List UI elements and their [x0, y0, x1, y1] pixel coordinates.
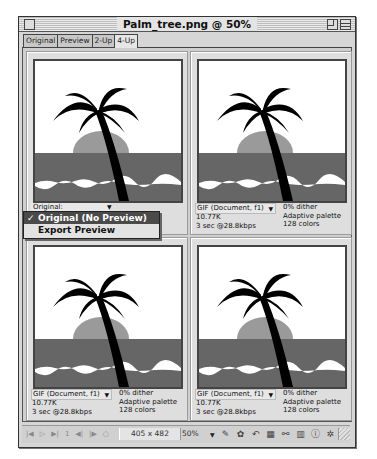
- palette-type: Adaptive palette: [283, 398, 341, 407]
- pane-info: GIF (Document, f1) ▼ 10.77K 3 sec @28.8k…: [195, 388, 348, 418]
- prev-frame-icon[interactable]: ◀|: [75, 430, 83, 438]
- chevron-down-icon[interactable]: ▼: [210, 428, 215, 441]
- pane-original[interactable]: Original: ▼: [26, 51, 188, 235]
- image-dimensions: 405 x 482: [119, 428, 181, 440]
- palm-tree-image: [199, 247, 345, 387]
- status-bar: |◀ ▷ ▶| 1 ◀| |▶ ○ 405 x 482 50% ▼ ✎ ✿ ↶ …: [22, 425, 350, 443]
- next-frame-icon[interactable]: |▶: [89, 430, 97, 438]
- title-bar[interactable]: Palm_tree.png @ 50%: [19, 17, 355, 32]
- file-stats: 10.77K 3 sec @28.8kbps: [196, 213, 256, 230]
- file-stats: 10.77K 3 sec @28.8kbps: [32, 399, 92, 416]
- image-preview[interactable]: [33, 59, 183, 203]
- undo-icon[interactable]: ↶: [250, 428, 261, 439]
- palm-tree-image: [35, 61, 181, 201]
- info-icon[interactable]: ⓘ: [310, 428, 321, 439]
- palette-type: Adaptive palette: [283, 212, 341, 221]
- check-icon: ✓: [27, 212, 35, 224]
- file-size: 10.77K: [196, 213, 256, 222]
- chevron-down-icon: ▼: [268, 204, 273, 213]
- collapse-box-button[interactable]: [340, 19, 351, 30]
- tab-preview[interactable]: Preview: [57, 34, 92, 47]
- image-preview[interactable]: [197, 59, 347, 203]
- play-icon[interactable]: ▷: [40, 430, 45, 438]
- loop-icon[interactable]: ○: [103, 430, 109, 438]
- file-size: 10.77K: [196, 399, 256, 408]
- window-title: Palm_tree.png @ 50%: [117, 17, 257, 31]
- toolbar-icons: ✎ ✿ ↶ ▦ ⚯ ▥ ⓘ ✲: [220, 428, 336, 439]
- pencil-icon[interactable]: ✎: [220, 428, 231, 439]
- download-time: 3 sec @28.8kbps: [32, 408, 92, 417]
- pane-optimized-2[interactable]: GIF (Document, f1) ▼ 10.77K 3 sec @28.8k…: [26, 237, 188, 421]
- last-frame-icon[interactable]: ▶|: [51, 430, 59, 438]
- file-stats: 10.77K 3 sec @28.8kbps: [196, 399, 256, 416]
- original-popup-menu: ✓ Original (No Preview) Export Preview: [23, 211, 160, 239]
- settings-icon[interactable]: ✲: [325, 428, 336, 439]
- chevron-down-icon: ▼: [268, 390, 273, 399]
- first-frame-icon[interactable]: |◀: [26, 430, 34, 438]
- animation-controls: |◀ ▷ ▶| 1 ◀| |▶ ○: [26, 430, 109, 438]
- palm-tree-image: [35, 247, 181, 387]
- document-window: Palm_tree.png @ 50% Original Preview 2-U…: [18, 16, 356, 448]
- file-size: 10.77K: [32, 399, 92, 408]
- dither-value: 0% dither: [283, 203, 341, 212]
- image-preview[interactable]: [33, 245, 183, 389]
- pane-info: GIF (Document, f1) ▼ 10.77K 3 sec @28.8k…: [31, 388, 184, 418]
- download-time: 3 sec @28.8kbps: [196, 408, 256, 417]
- image-preview[interactable]: [197, 245, 347, 389]
- close-box-button[interactable]: [24, 19, 35, 30]
- resize-handle[interactable]: [338, 428, 350, 440]
- download-time: 3 sec @28.8kbps: [196, 222, 256, 231]
- pane-optimized-1[interactable]: GIF (Document, f1) ▼ 10.77K 3 sec @28.8k…: [190, 51, 352, 235]
- menu-item-original-no-preview[interactable]: ✓ Original (No Preview): [24, 212, 159, 224]
- view-tabs: Original Preview 2-Up 4-Up: [23, 34, 137, 47]
- optimization-settings: 0% dither Adaptive palette 128 colors: [283, 203, 341, 229]
- zoom-box-button[interactable]: [327, 19, 338, 30]
- color-count: 128 colors: [283, 406, 341, 415]
- zoom-level-select[interactable]: 50%: [182, 428, 212, 440]
- pane-info: GIF (Document, f1) ▼ 10.77K 3 sec @28.8k…: [195, 202, 348, 232]
- tab-original[interactable]: Original: [23, 34, 58, 47]
- dither-value: 0% dither: [119, 389, 177, 398]
- hyperlink-icon[interactable]: ⚯: [280, 428, 291, 439]
- optimization-settings: 0% dither Adaptive palette 128 colors: [283, 389, 341, 415]
- optimization-settings: 0% dither Adaptive palette 128 colors: [119, 389, 177, 415]
- color-count: 128 colors: [283, 220, 341, 229]
- export-icon[interactable]: ▦: [265, 428, 276, 439]
- pane-optimized-3[interactable]: GIF (Document, f1) ▼ 10.77K 3 sec @28.8k…: [190, 237, 352, 421]
- dither-value: 0% dither: [283, 389, 341, 398]
- tab-2-up[interactable]: 2-Up: [92, 34, 116, 47]
- menu-item-export-preview[interactable]: Export Preview: [24, 224, 159, 236]
- palette-type: Adaptive palette: [119, 398, 177, 407]
- book-icon[interactable]: ▥: [295, 428, 306, 439]
- frame-number: 1: [65, 430, 69, 438]
- color-count: 128 colors: [119, 406, 177, 415]
- tab-4-up[interactable]: 4-Up: [114, 34, 138, 48]
- chevron-down-icon: ▼: [104, 390, 109, 399]
- palm-tree-image: [199, 61, 345, 201]
- palette-icon[interactable]: ✿: [235, 428, 246, 439]
